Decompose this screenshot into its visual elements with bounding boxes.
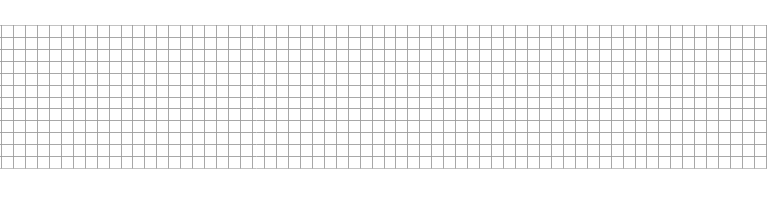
horizontal-grid-lines: [0, 26, 767, 169]
grid-paper: [0, 0, 767, 209]
vertical-grid-lines: [2, 25, 767, 169]
